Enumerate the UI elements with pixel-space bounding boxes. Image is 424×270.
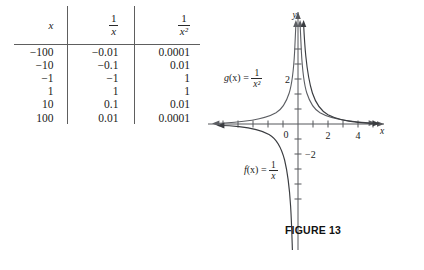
table-cell-x: 10 (14, 98, 68, 111)
figure-page: x 1 x 1 x² −100 (0, 0, 424, 270)
table-cell-inv-x: −1 (68, 71, 135, 84)
curve-f-third-quadrant (221, 126, 292, 251)
table-cell-inv-x2: 0.01 (135, 58, 200, 71)
table-cell-x: −100 (14, 45, 68, 59)
y-tick-label-2: 2 (285, 74, 290, 85)
fraction-numerator: 1 (269, 160, 278, 170)
figure-caption: FIGURE 13 (285, 224, 341, 236)
table-row: −100−0.010.0001 (14, 45, 200, 59)
table-header-x: x (14, 6, 68, 45)
curve-f-up-arrowhead (301, 20, 306, 27)
fraction-one-over-x-squared: 1 x² (178, 13, 190, 38)
y-axis-label: y (292, 10, 298, 20)
table-body: −100−0.010.0001−10−0.10.01−1−11111100.10… (14, 45, 200, 125)
graph-block: y x 0 2 4 2 −2 g(x) = 1 x² f(x) = 1 x (206, 0, 424, 250)
table-cell-inv-x: 1 (68, 85, 135, 98)
table-cell-inv-x: −0.01 (68, 45, 135, 59)
table-cell-inv-x2: 0.0001 (135, 45, 200, 59)
y-tick-label--2: −2 (305, 149, 316, 160)
fraction-denominator: x² (178, 25, 190, 38)
table-header-inv-x: 1 x (68, 6, 135, 45)
curve-g-right-branch (300, 24, 372, 123)
table-cell-inv-x: −0.1 (68, 58, 135, 71)
values-table: x 1 x 1 x² −100 (14, 6, 200, 124)
curve-label-f: f(x) = 1 x (244, 160, 278, 182)
fraction-denominator: x (269, 170, 278, 181)
fraction-denominator: x (109, 25, 119, 38)
curve-label-g-fraction: 1 x² (251, 68, 262, 90)
table-cell-x: 1 (14, 85, 68, 98)
fraction-numerator: 1 (109, 13, 119, 25)
table-row: −10−0.10.01 (14, 58, 200, 71)
table-cell-x: −10 (14, 58, 68, 71)
fraction-numerator: 1 (178, 13, 190, 25)
table-cell-inv-x2: 0.0001 (135, 111, 200, 124)
table-cell-inv-x: 0.01 (68, 111, 135, 124)
table-row: 100.10.01 (14, 98, 200, 111)
fraction-one-over-x: 1 x (109, 13, 119, 38)
y-axis-group (295, 12, 302, 250)
x-tick-label-2: 2 (326, 130, 331, 141)
table-head: x 1 x 1 x² (14, 6, 200, 45)
x-axis-label: x (379, 126, 385, 136)
table-cell-inv-x2: 1 (135, 71, 200, 84)
table-cell-x: −1 (14, 71, 68, 84)
table-cell-inv-x2: 1 (135, 85, 200, 98)
curve-label-f-equals: = (261, 164, 267, 175)
curve-label-f-fraction: 1 x (269, 160, 278, 182)
values-table-block: x 1 x 1 x² −100 (14, 6, 200, 124)
table-row: 1000.010.0001 (14, 111, 200, 124)
table-cell-x: 100 (14, 111, 68, 124)
curve-label-f-arg: (x) (247, 164, 259, 175)
table-row: 111 (14, 85, 200, 98)
table-cell-inv-x: 0.1 (68, 98, 135, 111)
table-header-inv-x2: 1 x² (135, 6, 200, 45)
table-header-row: x 1 x 1 x² (14, 6, 200, 45)
table-row: −1−11 (14, 71, 200, 84)
header-x-symbol: x (49, 19, 54, 31)
fraction-numerator: 1 (251, 68, 262, 78)
curve-label-g: g(x) = 1 x² (224, 68, 262, 90)
table-cell-inv-x2: 0.01 (135, 98, 200, 111)
fraction-denominator: x² (251, 78, 262, 89)
coordinate-plane: y x 0 2 4 2 −2 (206, 0, 424, 250)
curve-label-g-arg: (x) (229, 72, 241, 83)
origin-label: 0 (284, 129, 289, 140)
curve-label-g-equals: = (243, 72, 249, 83)
x-tick-label-4: 4 (356, 130, 361, 141)
